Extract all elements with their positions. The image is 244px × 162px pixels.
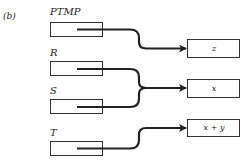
source-label-ptmp: PTMP (50, 7, 80, 17)
connector-ptmp-to-z (77, 30, 186, 49)
panel-label: (b) (3, 12, 16, 21)
connector-t-to-x-plus-y (77, 128, 186, 149)
target-label-x: x (188, 85, 240, 93)
target-label-x-plus-y: x + y (188, 124, 240, 132)
connector-s-to-x (77, 88, 146, 107)
source-label-t: T (50, 128, 57, 138)
target-label-z: z (188, 45, 240, 53)
connector-r-to-x (77, 69, 186, 88)
source-label-r: R (50, 48, 58, 58)
source-label-s: S (50, 86, 57, 96)
diagram-graphics (0, 0, 244, 162)
